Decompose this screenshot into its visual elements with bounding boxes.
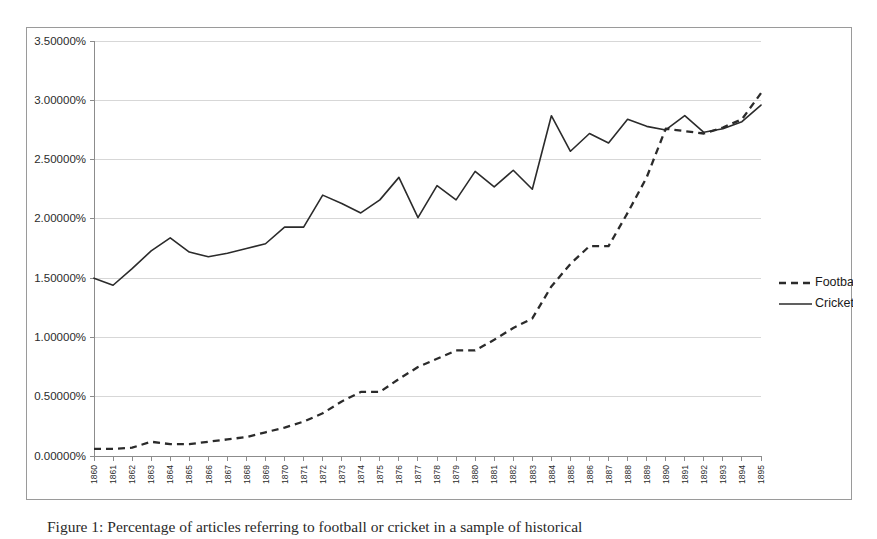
x-tick-label: 1883 bbox=[528, 465, 538, 484]
x-tick-label: 1862 bbox=[127, 465, 137, 484]
y-tick-label: 1.50000% bbox=[34, 272, 86, 284]
x-tick-label: 1882 bbox=[508, 465, 518, 484]
x-tick-label: 1877 bbox=[413, 465, 423, 484]
series-lines bbox=[94, 93, 761, 449]
x-tick-label: 1881 bbox=[489, 465, 499, 484]
gridlines bbox=[94, 41, 761, 397]
x-tick-label: 1864 bbox=[165, 465, 175, 484]
series-line-cricket bbox=[94, 105, 761, 285]
x-tick-label: 1863 bbox=[146, 465, 156, 484]
x-tick-label: 1872 bbox=[318, 465, 328, 484]
x-tick-label: 1885 bbox=[566, 465, 576, 484]
figure-caption: Figure 1: Percentage of articles referri… bbox=[47, 516, 847, 539]
chart-frame: 0.00000%0.50000%1.00000%1.50000%2.00000%… bbox=[26, 27, 852, 500]
y-tick-label: 0.00000% bbox=[34, 450, 86, 462]
y-axis: 0.00000%0.50000%1.00000%1.50000%2.00000%… bbox=[34, 35, 94, 462]
x-tick-label: 1869 bbox=[261, 465, 271, 484]
y-tick-label: 2.00000% bbox=[34, 212, 86, 224]
y-tick-label: 0.50000% bbox=[34, 390, 86, 402]
x-tick-label: 1875 bbox=[375, 465, 385, 484]
x-tick-label: 1891 bbox=[680, 465, 690, 484]
y-tick-label: 2.50000% bbox=[34, 153, 86, 165]
y-tick-label: 3.50000% bbox=[34, 35, 86, 47]
x-axis: 1860186118621863186418651866186718681869… bbox=[89, 456, 766, 484]
x-tick-label: 1874 bbox=[356, 465, 366, 484]
x-tick-label: 1895 bbox=[756, 465, 766, 484]
legend-label-cricket: Cricket bbox=[815, 296, 853, 310]
x-tick-label: 1889 bbox=[642, 465, 652, 484]
x-tick-label: 1886 bbox=[585, 465, 595, 484]
x-tick-label: 1865 bbox=[184, 465, 194, 484]
x-tick-label: 1892 bbox=[699, 465, 709, 484]
x-tick-label: 1890 bbox=[661, 465, 671, 484]
x-tick-label: 1867 bbox=[223, 465, 233, 484]
x-tick-label: 1879 bbox=[451, 465, 461, 484]
legend-label-football: Football bbox=[815, 275, 853, 289]
chart-plot: 0.00000%0.50000%1.00000%1.50000%2.00000%… bbox=[27, 28, 853, 501]
y-tick-label: 3.00000% bbox=[34, 94, 86, 106]
x-tick-label: 1861 bbox=[108, 465, 118, 484]
x-tick-label: 1860 bbox=[89, 465, 99, 484]
x-tick-label: 1887 bbox=[604, 465, 614, 484]
y-tick-label: 1.00000% bbox=[34, 331, 86, 343]
x-tick-label: 1894 bbox=[737, 465, 747, 484]
x-tick-label: 1884 bbox=[547, 465, 557, 484]
series-line-football bbox=[94, 93, 761, 449]
x-tick-label: 1873 bbox=[337, 465, 347, 484]
x-tick-label: 1866 bbox=[204, 465, 214, 484]
x-tick-label: 1893 bbox=[718, 465, 728, 484]
x-tick-label: 1876 bbox=[394, 465, 404, 484]
x-tick-label: 1880 bbox=[470, 465, 480, 484]
chart-legend: FootballCricket bbox=[779, 275, 853, 310]
x-tick-label: 1888 bbox=[623, 465, 633, 484]
x-tick-label: 1871 bbox=[299, 465, 309, 484]
x-tick-label: 1878 bbox=[432, 465, 442, 484]
x-tick-label: 1868 bbox=[242, 465, 252, 484]
x-tick-label: 1870 bbox=[280, 465, 290, 484]
